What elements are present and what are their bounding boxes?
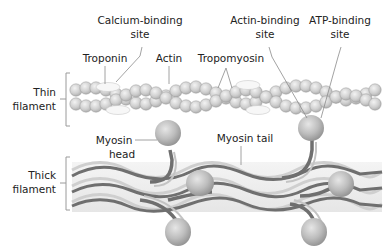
label-thin-filament-2: filament <box>13 100 56 112</box>
label-myosin-head-1: Myosin <box>96 134 133 146</box>
myosin-head-mid-right <box>328 171 354 197</box>
label-tropomyosin: Tropomyosin <box>197 52 264 64</box>
label-actin: Actin <box>156 52 182 64</box>
leader-tropomyosin-b <box>226 68 232 88</box>
myosin-head-upper-left <box>155 120 181 146</box>
label-thick-filament-1: Thick <box>27 169 57 181</box>
label-thick-filament-2: filament <box>13 183 56 195</box>
myosin-head-bottom-right <box>301 218 327 246</box>
label-calcium-binding-site-1: Calcium-binding <box>97 14 182 26</box>
label-actin-binding-site-1: Actin-binding <box>230 14 299 26</box>
muscle-filament-diagram: Calcium-binding site Troponin Actin Trop… <box>0 0 383 251</box>
label-calcium-binding-site-2: site <box>131 28 150 40</box>
myosin-head-bottom-left <box>165 218 191 246</box>
label-thin-filament-1: Thin <box>32 86 56 98</box>
label-atp-binding-site-1: ATP-binding <box>309 14 371 26</box>
thin-filament-bracket <box>60 73 70 126</box>
label-actin-binding-site-2: site <box>256 28 275 40</box>
myosin-head-mid-left <box>186 170 214 196</box>
label-myosin-tail: Myosin tail <box>217 132 273 144</box>
thin-filament <box>70 80 381 115</box>
myosin-head-upper-right <box>298 115 324 141</box>
thick-filament-bracket <box>60 157 70 210</box>
label-myosin-head-2: head <box>109 148 135 160</box>
label-troponin: Troponin <box>82 52 128 64</box>
label-atp-binding-site-2: site <box>331 28 350 40</box>
leader-tropomyosin-a <box>218 68 226 88</box>
leader-atp-binding-site <box>321 47 341 118</box>
